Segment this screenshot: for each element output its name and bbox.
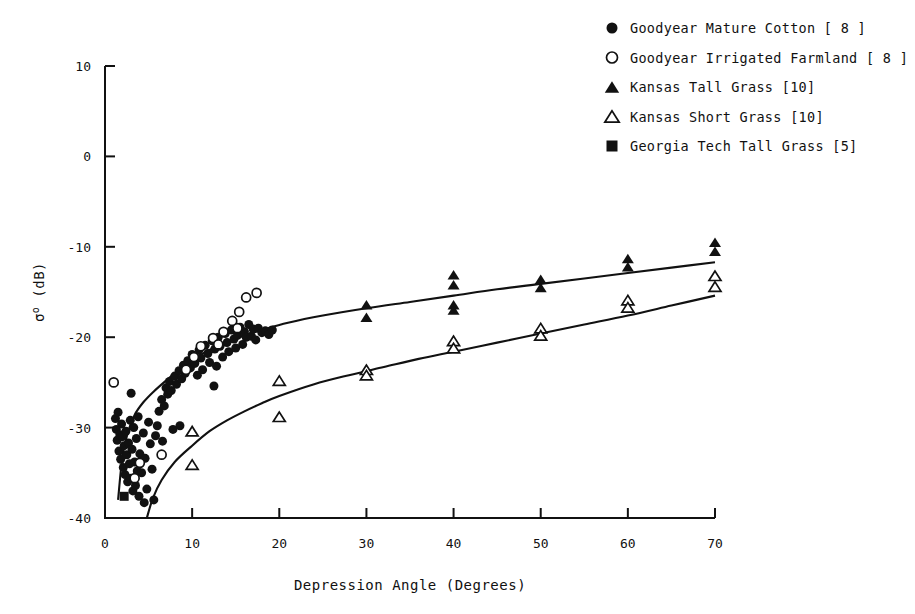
legend-marker-open-circle [607, 52, 618, 63]
data-point-1-4 [182, 365, 191, 374]
x-tick-labels: 010203040506070 [101, 536, 723, 551]
series-2 [360, 238, 721, 323]
data-point-3-3 [273, 412, 285, 422]
scatter-plot: 010203040506070 100-10-20-30-40 Depressi… [0, 0, 915, 614]
data-point-0-19 [128, 445, 137, 454]
data-point-1-13 [233, 324, 242, 333]
data-point-0-84 [251, 335, 260, 344]
legend-entry-3[interactable]: Kansas Short Grass [10] [605, 109, 824, 125]
data-point-1-12 [252, 288, 261, 297]
y-tick-label-4: -30 [68, 421, 91, 436]
data-point-1-14 [214, 340, 223, 349]
data-point-2-9 [622, 262, 634, 272]
data-point-2-0 [360, 300, 372, 310]
figure-container: 010203040506070 100-10-20-30-40 Depressi… [0, 0, 915, 614]
y-tick-label-2: -10 [68, 240, 91, 255]
data-point-1-2 [135, 458, 144, 467]
data-point-0-89 [268, 325, 277, 334]
data-point-0-90 [209, 382, 218, 391]
legend-entry-2[interactable]: Kansas Tall Grass [10] [605, 79, 816, 95]
data-point-2-2 [448, 270, 460, 280]
data-point-1-10 [235, 307, 244, 316]
data-point-0-33 [144, 418, 153, 427]
y-tick-label-0: 10 [75, 59, 91, 74]
data-point-3-13 [709, 282, 721, 292]
x-tick-label-5: 50 [533, 536, 549, 551]
data-point-3-1 [186, 460, 198, 470]
data-points [109, 238, 721, 508]
data-point-0-66 [212, 362, 221, 371]
data-point-0-30 [139, 429, 148, 438]
legend-entry-4[interactable]: Georgia Tech Tall Grass [5] [607, 138, 858, 154]
data-point-2-3 [448, 280, 460, 290]
data-point-0-35 [148, 465, 157, 474]
data-point-0-26 [134, 412, 143, 421]
axis-frame [105, 66, 715, 518]
data-point-0-60 [198, 365, 207, 374]
series-4 [120, 492, 129, 501]
y-tick-label-1: 0 [83, 149, 91, 164]
legend-marker-open-triangle [605, 111, 619, 122]
legend-label-4: Georgia Tech Tall Grass [5] [630, 138, 858, 154]
data-point-3-0 [186, 426, 198, 436]
data-point-2-10 [709, 238, 721, 248]
legend-label-1: Goodyear Irrigated Farmland [ 8 ] [630, 50, 908, 66]
legend: Goodyear Mature Cotton [ 8 ]Goodyear Irr… [605, 20, 908, 154]
data-point-2-1 [360, 313, 372, 323]
data-point-1-5 [189, 353, 198, 362]
data-point-1-3 [157, 450, 166, 459]
legend-label-3: Kansas Short Grass [10] [630, 109, 824, 125]
legend-marker-filled-circle [607, 23, 618, 34]
data-point-2-6 [535, 275, 547, 285]
data-point-1-0 [109, 378, 118, 387]
x-tick-label-1: 10 [184, 536, 200, 551]
data-point-0-3 [114, 408, 123, 417]
data-point-0-21 [129, 423, 138, 432]
data-point-1-11 [242, 293, 251, 302]
data-point-1-8 [219, 327, 228, 336]
legend-entry-1[interactable]: Goodyear Irrigated Farmland [ 8 ] [607, 50, 909, 66]
axes [105, 66, 715, 518]
data-point-3-12 [709, 271, 721, 281]
data-point-0-36 [149, 495, 158, 504]
data-point-0-92 [158, 437, 167, 446]
y-tick-labels: 100-10-20-30-40 [68, 59, 91, 526]
legend-label-0: Goodyear Mature Cotton [ 8 ] [630, 20, 866, 36]
data-point-0-91 [175, 421, 184, 430]
data-point-3-2 [273, 376, 285, 386]
x-tick-label-7: 70 [707, 536, 723, 551]
data-point-0-93 [140, 498, 149, 507]
x-axis-title: Depression Angle (Degrees) [294, 577, 526, 593]
legend-marker-filled-square [607, 141, 618, 152]
x-tick-label-6: 60 [620, 536, 636, 551]
data-point-0-32 [142, 485, 151, 494]
x-tick-label-2: 20 [271, 536, 287, 551]
data-point-0-12 [121, 427, 130, 436]
data-point-2-8 [622, 254, 634, 264]
data-point-1-1 [130, 474, 139, 483]
data-point-0-41 [160, 401, 169, 410]
data-point-0-38 [153, 421, 162, 430]
legend-label-2: Kansas Tall Grass [10] [630, 79, 815, 95]
legend-marker-filled-triangle [605, 81, 619, 92]
x-tick-label-3: 30 [359, 536, 375, 551]
y-tick-label-3: -20 [68, 330, 91, 345]
x-tick-label-0: 0 [101, 536, 109, 551]
data-point-2-11 [709, 247, 721, 257]
data-point-4-0 [120, 492, 129, 501]
data-point-1-6 [196, 342, 205, 351]
data-point-0-34 [146, 439, 155, 448]
data-point-0-94 [127, 389, 136, 398]
legend-entry-0[interactable]: Goodyear Mature Cotton [ 8 ] [607, 20, 866, 36]
y-axis-title: σo (dB) [30, 262, 47, 322]
y-tick-label-5: -40 [68, 511, 91, 526]
x-tick-label-4: 40 [446, 536, 462, 551]
